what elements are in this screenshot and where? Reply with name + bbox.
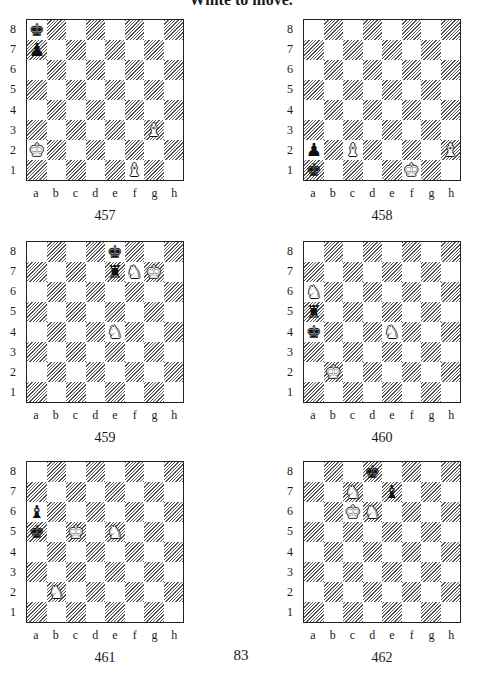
square-e7 — [105, 40, 125, 60]
square-h3 — [441, 120, 461, 140]
square-f7 — [402, 262, 422, 282]
file-label: d — [362, 407, 382, 423]
square-d2 — [86, 362, 106, 382]
square-e3 — [105, 562, 125, 582]
square-b5 — [324, 80, 344, 100]
square-f4 — [402, 322, 422, 342]
square-a5 — [304, 522, 324, 542]
square-c8 — [343, 20, 363, 40]
square-b1 — [47, 160, 67, 180]
rank-label: 4 — [6, 100, 20, 120]
file-label: a — [26, 185, 46, 201]
black-pawn-icon: ♟ — [27, 40, 47, 60]
square-e1 — [382, 602, 402, 622]
square-h3 — [164, 342, 184, 362]
square-g5 — [144, 302, 164, 322]
square-d2 — [363, 140, 383, 160]
square-h7 — [441, 262, 461, 282]
square-b5 — [47, 522, 67, 542]
rank-label: 3 — [6, 562, 20, 582]
black-pawn-icon: ♟ — [304, 140, 324, 160]
chess-diagram: 87654321♞♜♚♞♚abcdefgh460 — [281, 241, 461, 456]
chess-diagram: 87654321♚♟♝♚♝abcdefgh457 — [4, 19, 184, 234]
square-h7 — [441, 482, 461, 502]
rank-label: 2 — [6, 583, 20, 603]
square-b4 — [324, 100, 344, 120]
white-knight-icon: ♞ — [304, 282, 324, 302]
square-g1 — [144, 160, 164, 180]
square-b3 — [47, 562, 67, 582]
square-f6 — [125, 282, 145, 302]
square-e8 — [105, 20, 125, 40]
square-f3 — [125, 342, 145, 362]
square-f3 — [125, 120, 145, 140]
square-c4 — [66, 322, 86, 342]
square-a7 — [304, 40, 324, 60]
square-a8 — [304, 242, 324, 262]
square-f8 — [402, 462, 422, 482]
square-g7 — [421, 262, 441, 282]
square-d8 — [363, 242, 383, 262]
square-c4 — [66, 100, 86, 120]
square-g4 — [421, 542, 441, 562]
square-c2 — [343, 582, 363, 602]
chess-board: ♟♝♝♚♚ — [303, 19, 461, 181]
rank-label: 1 — [6, 383, 20, 403]
square-a7: ♟ — [27, 40, 47, 60]
file-label: e — [105, 407, 125, 423]
square-b4 — [47, 100, 67, 120]
file-label: d — [362, 185, 382, 201]
file-label: h — [441, 627, 461, 643]
square-e3 — [105, 342, 125, 362]
square-g3: ♝ — [144, 120, 164, 140]
white-knight-icon: ♞ — [363, 502, 383, 522]
square-c5 — [343, 522, 363, 542]
square-g3 — [144, 562, 164, 582]
rank-label: 7 — [283, 261, 297, 281]
chess-diagram: 87654321♚♞♝♚♞abcdefgh462 — [281, 461, 461, 676]
file-label: g — [145, 185, 165, 201]
file-label: f — [125, 627, 145, 643]
square-e2 — [105, 140, 125, 160]
square-f7 — [402, 40, 422, 60]
square-h2 — [164, 362, 184, 382]
square-f3 — [402, 562, 422, 582]
square-g7 — [144, 40, 164, 60]
square-e2 — [105, 582, 125, 602]
square-c8 — [66, 242, 86, 262]
square-h1 — [164, 382, 184, 402]
square-h7 — [441, 40, 461, 60]
file-label: b — [323, 407, 343, 423]
square-g3 — [421, 120, 441, 140]
square-b3 — [324, 342, 344, 362]
square-h1 — [164, 602, 184, 622]
square-a3 — [304, 562, 324, 582]
square-g8 — [144, 462, 164, 482]
square-b6 — [47, 282, 67, 302]
square-b8 — [324, 462, 344, 482]
square-f2 — [402, 582, 422, 602]
file-label: c — [66, 185, 86, 201]
square-d1 — [86, 602, 106, 622]
square-a8 — [304, 20, 324, 40]
rank-label: 5 — [283, 302, 297, 322]
square-d6 — [363, 60, 383, 80]
square-c8 — [343, 242, 363, 262]
square-h5 — [441, 522, 461, 542]
square-a4 — [27, 322, 47, 342]
file-label: d — [362, 627, 382, 643]
rank-label: 8 — [283, 19, 297, 39]
square-a6 — [304, 502, 324, 522]
square-d5 — [86, 522, 106, 542]
square-a7 — [304, 482, 324, 502]
file-label: f — [125, 407, 145, 423]
rank-label: 7 — [6, 481, 20, 501]
square-d7 — [86, 40, 106, 60]
square-d5 — [363, 80, 383, 100]
file-label: a — [303, 185, 323, 201]
square-f5 — [402, 80, 422, 100]
square-d6: ♞ — [363, 502, 383, 522]
square-a6 — [304, 60, 324, 80]
square-b1 — [47, 382, 67, 402]
rank-labels: 87654321 — [6, 241, 20, 403]
